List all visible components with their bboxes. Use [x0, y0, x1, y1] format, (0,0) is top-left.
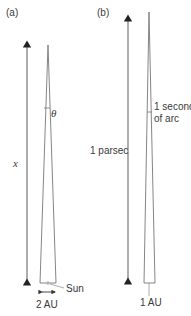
baseline-1au-label: 1 AU: [140, 297, 162, 308]
baseline-2au-label: 2 AU: [36, 299, 58, 310]
angle-arcsec-label-line2: of arc: [154, 113, 179, 124]
panel-b-label: (b): [97, 7, 109, 18]
distance-parsec-label: 1 parsec: [90, 145, 128, 156]
panel-a-graphic: [27, 44, 64, 292]
sun-leader-line: [50, 284, 64, 288]
parallax-diagram: [0, 0, 191, 316]
parallax-triangle-a: [40, 45, 56, 283]
parallax-triangle-b: [144, 12, 155, 283]
sun-icon: [46, 281, 50, 285]
panel-a-label: (a): [6, 7, 18, 18]
panel-b-graphic: [128, 12, 155, 296]
angle-arcsec-label-line1: 1 second: [154, 101, 191, 112]
distance-x-label: x: [13, 158, 18, 169]
angle-theta-label: θ: [51, 108, 56, 119]
sun-label: Sun: [66, 283, 84, 294]
